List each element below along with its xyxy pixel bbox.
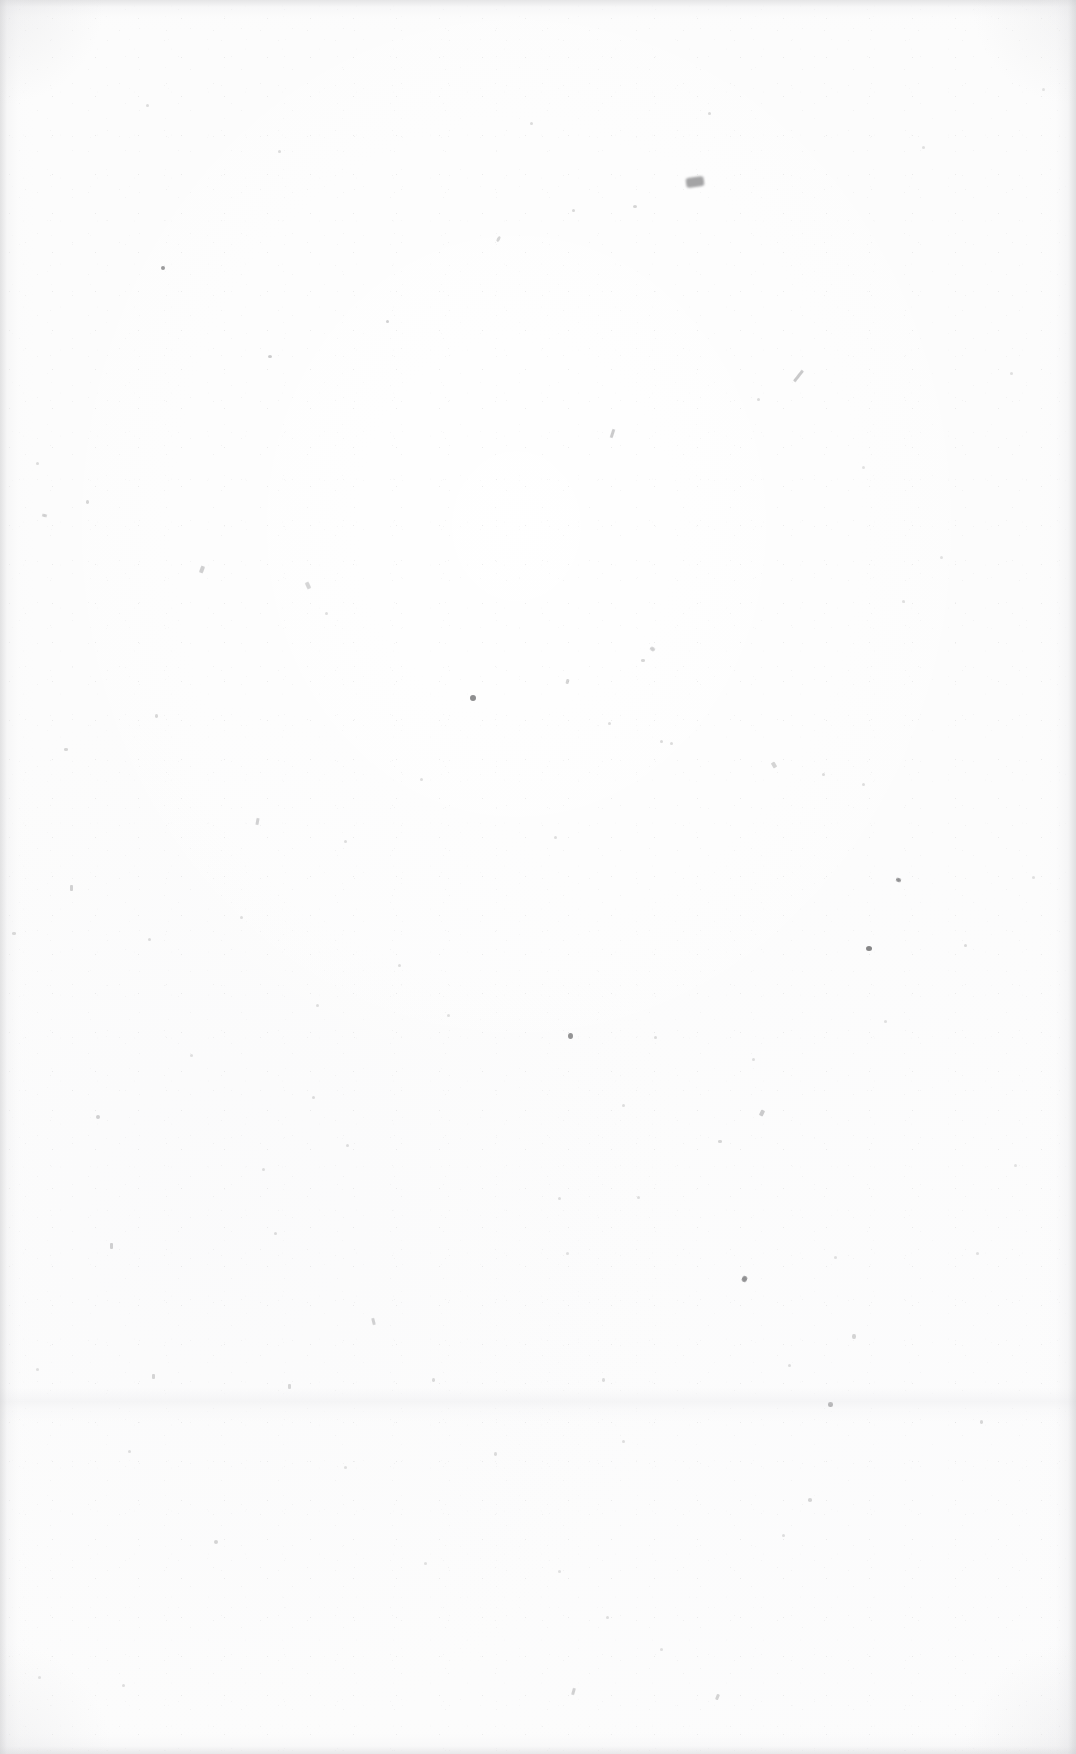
page-text-content: [0, 0, 1076, 1754]
scanned-page: [0, 0, 1076, 1754]
